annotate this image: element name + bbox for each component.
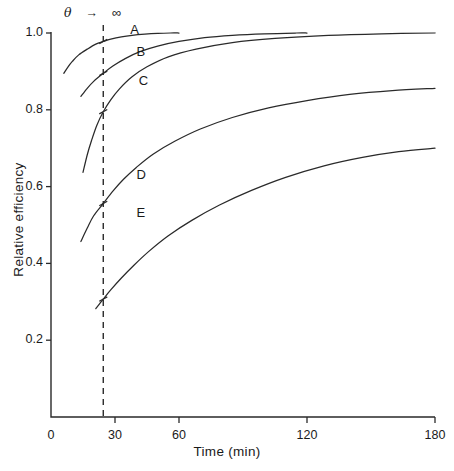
vertical-reference-line xyxy=(99,25,107,421)
curve-e xyxy=(96,148,435,309)
chart-figure: θ→∞ 0.20.40.60.81.003060120180 ABCDE Tim… xyxy=(0,0,454,471)
curve-label-c: C xyxy=(139,73,148,88)
infinity-symbol: ∞ xyxy=(112,5,121,20)
y-tick-label: 0.8 xyxy=(0,102,43,116)
x-tick-label: 30 xyxy=(90,428,140,442)
x-tick-label: 120 xyxy=(282,428,332,442)
curve-d xyxy=(81,88,435,241)
curve-label-e: E xyxy=(137,205,146,220)
x-tick-label: 180 xyxy=(410,428,454,442)
y-tick-label: 1.0 xyxy=(0,25,43,39)
plot-canvas xyxy=(0,0,454,471)
curve-label-b: B xyxy=(137,44,146,59)
curve-b xyxy=(81,33,307,96)
curves-group xyxy=(64,33,435,309)
theta-symbol: θ xyxy=(64,5,72,20)
x-axis-title: Time (min) xyxy=(0,444,454,459)
curve-a xyxy=(64,33,179,73)
y-tick-label: 0.2 xyxy=(0,332,43,346)
y-axis-title: Relative efficiency xyxy=(11,120,26,320)
curve-label-a: A xyxy=(130,22,139,37)
arrow-icon: → xyxy=(86,6,99,20)
axes-group xyxy=(46,32,435,423)
axis-spines xyxy=(51,32,435,417)
x-tick-label: 0 xyxy=(26,428,76,442)
limit-annotation: θ→∞ xyxy=(64,5,121,20)
curve-label-d: D xyxy=(137,167,146,182)
x-tick-label: 60 xyxy=(154,428,204,442)
